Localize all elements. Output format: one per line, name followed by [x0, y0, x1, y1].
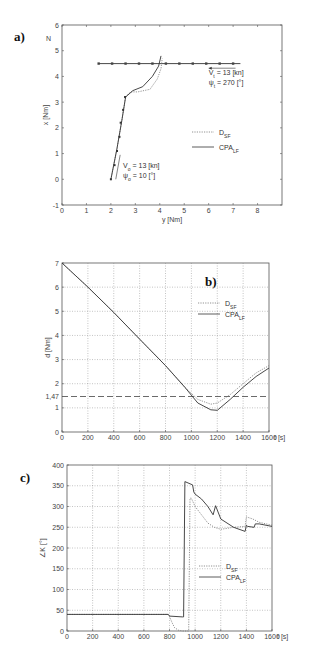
x-tick-label: 6 [207, 207, 211, 214]
position-marker [110, 178, 112, 180]
x-tick-label: 8 [256, 207, 260, 214]
y-tick-label: 6 [55, 22, 59, 29]
threshold-label: 1,47 [45, 393, 59, 400]
position-marker [124, 62, 126, 64]
position-marker [122, 109, 124, 111]
y-tick-label: 50 [56, 607, 64, 614]
chart-a: 012345678-10123456y [Nm]x [Nm]a)DSFCPALF… [14, 22, 282, 225]
position-marker [97, 62, 99, 64]
own-course-annotation: ψo = 10 [°] [123, 172, 155, 182]
x-tick-label: 5 [182, 207, 186, 214]
target-course-annotation: ψt = 270 [°] [209, 79, 244, 89]
y-tick-label: 3 [55, 356, 59, 363]
position-marker [116, 150, 118, 152]
x-tick-label: 1000 [187, 633, 203, 640]
position-marker [218, 62, 220, 64]
position-marker [114, 164, 116, 166]
x-tick-label: 0 [60, 434, 64, 441]
x-tick-label: 600 [134, 434, 146, 441]
legend: DSFCPALF [199, 563, 246, 584]
position-marker [138, 62, 140, 64]
plot-frame [62, 25, 282, 205]
y-tick-label: 150 [52, 565, 64, 572]
y-tick-label: 200 [52, 545, 64, 552]
y-tick-label: 6 [55, 284, 59, 291]
position-marker [118, 136, 120, 138]
position-marker [205, 62, 207, 64]
own-velocity-arrow [116, 155, 120, 179]
figure: 012345678-10123456y [Nm]x [Nm]a)DSFCPALF… [0, 0, 310, 657]
position-marker [178, 62, 180, 64]
x-tick-label: 1400 [239, 633, 255, 640]
legend-item-d-sf: DSF [219, 129, 230, 139]
x-tick-label: 0 [60, 207, 64, 214]
x-tick-label: 4 [158, 207, 162, 214]
y-tick-label: 4 [55, 73, 59, 80]
own-speed-annotation: Vo = 13 [kn] [123, 162, 159, 172]
legend-item-d-sf: DSF [225, 300, 236, 310]
x-tick-label: 1000 [184, 434, 200, 441]
x-tick-label: 1 [84, 207, 88, 214]
north-label: N [46, 35, 51, 42]
x-tick-label: 1200 [209, 434, 225, 441]
y-tick-label: 0 [55, 429, 59, 436]
x-tick-label: 200 [87, 633, 99, 640]
y-tick-label: 400 [52, 462, 64, 469]
y-tick-label: 4 [55, 332, 59, 339]
y-tick-label: 0 [60, 628, 64, 635]
y-tick-label: 1 [55, 404, 59, 411]
x-tick-label: 600 [138, 633, 150, 640]
chart-b: 02004006008001000120014001600011,4723456… [44, 260, 285, 443]
y-tick-label: 7 [55, 260, 59, 267]
panel-label: c) [20, 470, 30, 485]
y-tick-label: 250 [52, 524, 64, 531]
position-marker [124, 96, 126, 98]
legend-item-d-sf: DSF [226, 563, 237, 573]
x-tick-label: 0 [65, 633, 69, 640]
position-marker [151, 62, 153, 64]
legend: DSFCPALF [198, 300, 245, 321]
y-tick-label: 300 [52, 503, 64, 510]
x-axis-label: y [Nm] [162, 216, 182, 224]
y-tick-label: 3 [55, 99, 59, 106]
y-axis-label: d [Nm] [44, 337, 52, 358]
x-tick-label: 200 [82, 434, 94, 441]
position-marker [192, 62, 194, 64]
y-axis-label: x [Nm] [42, 105, 50, 125]
legend-item-cpa-lf: CPALF [225, 311, 245, 321]
position-marker [120, 122, 122, 124]
x-tick-label: 800 [164, 633, 176, 640]
x-axis-label: t [s] [277, 633, 288, 641]
y-tick-label: 5 [55, 47, 59, 54]
series-cpa-lf [67, 482, 272, 617]
legend-item-cpa-lf: CPALF [226, 574, 246, 584]
x-tick-label: 400 [108, 434, 120, 441]
chart-c: 0200400600800100012001400160005010015020… [20, 462, 288, 642]
y-tick-label: 350 [52, 482, 64, 489]
x-axis-label: t [s] [274, 434, 285, 442]
legend-item-cpa-lf: CPALF [219, 144, 239, 154]
x-tick-label: 1400 [235, 434, 251, 441]
x-tick-label: 2 [109, 207, 113, 214]
y-tick-label: 2 [55, 380, 59, 387]
y-tick-label: 1 [55, 150, 59, 157]
x-tick-label: 1200 [213, 633, 229, 640]
y-tick-label: 2 [55, 124, 59, 131]
target-speed-annotation: Vt = 13 [kn] [209, 69, 244, 79]
panel-label: a) [14, 29, 25, 44]
x-tick-label: 400 [112, 633, 124, 640]
position-marker [111, 62, 113, 64]
x-tick-label: 7 [231, 207, 235, 214]
panel-label: b) [205, 274, 217, 289]
y-axis-label: ∠K [°] [39, 538, 47, 557]
x-tick-label: 3 [133, 207, 137, 214]
position-marker [232, 62, 234, 64]
y-tick-label: 100 [52, 586, 64, 593]
legend: DSFCPALF [192, 129, 239, 154]
x-tick-label: 800 [160, 434, 172, 441]
y-tick-label: -1 [53, 202, 59, 209]
y-tick-label: 5 [55, 308, 59, 315]
y-tick-label: 0 [55, 176, 59, 183]
position-marker [165, 62, 167, 64]
